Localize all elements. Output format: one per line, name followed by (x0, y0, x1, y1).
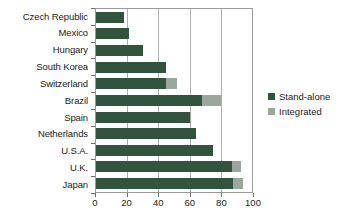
bar-row (96, 45, 252, 56)
category-label: U.S.A. (61, 146, 92, 156)
category-label: Japan (63, 180, 92, 190)
bar-chart: Czech RepublicMexicoHungarySouth KoreaSw… (0, 0, 360, 223)
bar-row (96, 95, 252, 106)
x-axis-tickmarks (95, 193, 253, 197)
x-axis-tick-label: 60 (185, 198, 196, 208)
category-label: Switzerland (40, 79, 92, 89)
legend-swatch-icon (268, 108, 275, 115)
bar-segment-stand-alone (96, 78, 166, 89)
bar-row (96, 78, 252, 89)
x-axis-labels: 020406080100 (95, 198, 253, 212)
bar-row (96, 28, 252, 39)
x-axis-tick-label: 40 (153, 198, 164, 208)
x-axis-tick-label: 80 (216, 198, 227, 208)
bar-segment-integrated (233, 178, 242, 189)
legend-label: Integrated (279, 107, 322, 117)
bar-row (96, 62, 252, 73)
bar-row (96, 128, 252, 139)
category-label: Hungary (53, 45, 92, 55)
bar-segment-stand-alone (96, 62, 166, 73)
category-label: Mexico (59, 28, 93, 38)
legend-item: Stand-alone (268, 92, 330, 102)
x-axis-tick-label: 20 (121, 198, 132, 208)
legend-label: Stand-alone (279, 92, 330, 102)
bar-segment-stand-alone (96, 145, 213, 156)
bar-row (96, 112, 252, 123)
bar-row (96, 12, 252, 23)
bar-segment-stand-alone (96, 28, 129, 39)
bar-segment-integrated (166, 78, 177, 89)
bar-segment-integrated (202, 95, 221, 106)
bar-row (96, 161, 252, 172)
bar-segment-integrated (190, 112, 192, 123)
category-label: Spain (64, 113, 92, 123)
category-label: Czech Republic (23, 12, 92, 22)
x-axis-tick-label: 0 (92, 198, 97, 208)
bar-segment-stand-alone (96, 112, 190, 123)
category-label: Netherlands (38, 129, 92, 139)
plot-area (95, 8, 253, 193)
legend-swatch-icon (268, 93, 275, 100)
bar-segment-stand-alone (96, 128, 196, 139)
bar-row (96, 178, 252, 189)
bar-segment-stand-alone (96, 12, 124, 23)
bar-segment-stand-alone (96, 95, 202, 106)
bar-segment-stand-alone (96, 45, 143, 56)
bar-series-group (96, 9, 252, 192)
bar-row (96, 145, 252, 156)
bar-segment-stand-alone (96, 161, 232, 172)
category-axis: Czech RepublicMexicoHungarySouth KoreaSw… (0, 8, 92, 193)
bar-segment-integrated (232, 161, 241, 172)
legend-item: Integrated (268, 107, 330, 117)
legend: Stand-aloneIntegrated (268, 92, 330, 116)
category-label: Brazil (65, 96, 92, 106)
category-label: U.K. (70, 163, 92, 173)
bar-segment-stand-alone (96, 178, 233, 189)
x-axis-tick-label: 100 (245, 198, 261, 208)
category-label: South Korea (36, 62, 92, 72)
